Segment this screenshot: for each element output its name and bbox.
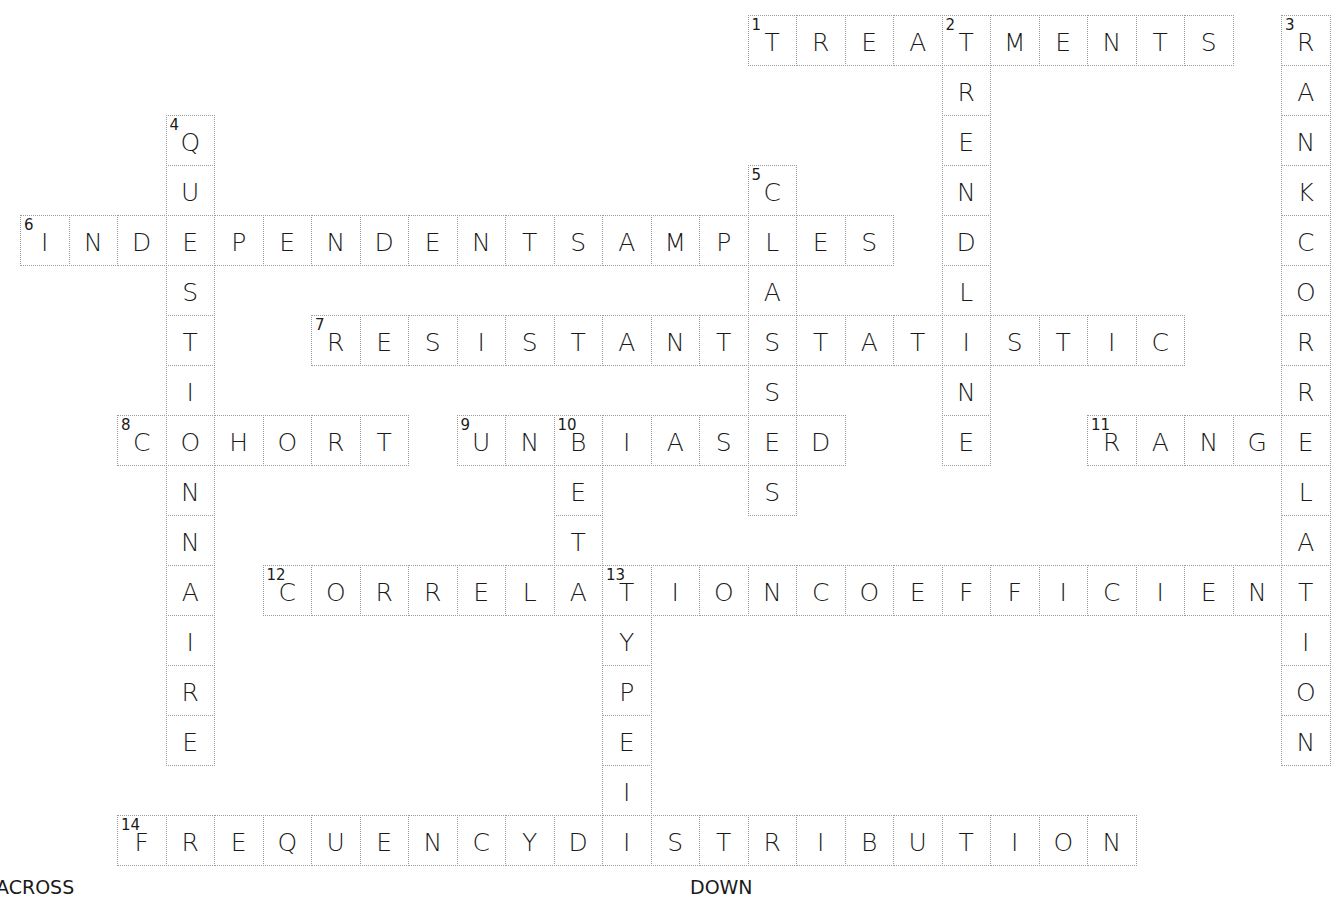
crossword-cell[interactable]: T — [942, 815, 992, 866]
crossword-cell[interactable]: N — [1233, 565, 1283, 616]
crossword-cell[interactable]: A — [845, 315, 895, 366]
crossword-cell[interactable]: N — [311, 215, 361, 266]
crossword-cell[interactable]: E — [263, 215, 313, 266]
crossword-cell[interactable]: A — [1281, 65, 1331, 116]
crossword-cell[interactable]: I — [990, 815, 1040, 866]
crossword-cell[interactable]: A — [602, 315, 652, 366]
crossword-cell[interactable]: F — [990, 565, 1040, 616]
crossword-cell[interactable]: A — [1136, 415, 1186, 466]
crossword-cell[interactable]: N — [1281, 715, 1331, 766]
crossword-cell[interactable]: U — [166, 165, 216, 216]
crossword-cell[interactable]: O — [1039, 815, 1089, 866]
crossword-cell[interactable]: T — [1281, 565, 1331, 616]
crossword-cell[interactable]: E — [1184, 565, 1234, 616]
crossword-cell[interactable]: 7R — [311, 315, 361, 366]
crossword-cell[interactable]: C — [1281, 215, 1331, 266]
crossword-cell[interactable]: N — [1281, 115, 1331, 166]
crossword-cell[interactable]: I — [166, 365, 216, 416]
crossword-cell[interactable]: R — [1281, 365, 1331, 416]
crossword-cell[interactable]: D — [117, 215, 167, 266]
crossword-cell[interactable]: M — [651, 215, 701, 266]
crossword-cell[interactable]: T — [554, 315, 604, 366]
crossword-cell[interactable]: T — [505, 215, 555, 266]
crossword-cell[interactable]: L — [1281, 465, 1331, 516]
crossword-cell[interactable]: I — [1039, 565, 1089, 616]
crossword-cell[interactable]: O — [1281, 665, 1331, 716]
crossword-cell[interactable]: N — [1087, 815, 1137, 866]
crossword-cell[interactable]: D — [942, 215, 992, 266]
crossword-cell[interactable]: G — [1233, 415, 1283, 466]
crossword-cell[interactable]: N — [166, 515, 216, 566]
crossword-cell[interactable]: S — [505, 315, 555, 366]
crossword-cell[interactable]: 14F — [117, 815, 167, 866]
crossword-cell[interactable]: T — [699, 315, 749, 366]
crossword-cell[interactable]: C — [457, 815, 507, 866]
crossword-cell[interactable]: O — [845, 565, 895, 616]
crossword-cell[interactable]: N — [1087, 15, 1137, 66]
crossword-cell[interactable]: 4Q — [166, 115, 216, 166]
crossword-cell[interactable]: I — [602, 815, 652, 866]
crossword-cell[interactable]: S — [699, 415, 749, 466]
crossword-cell[interactable]: R — [166, 815, 216, 866]
crossword-cell[interactable]: N — [748, 565, 798, 616]
crossword-cell[interactable]: B — [845, 815, 895, 866]
crossword-cell[interactable]: A — [602, 215, 652, 266]
crossword-cell[interactable]: R — [408, 565, 458, 616]
crossword-cell[interactable]: Y — [505, 815, 555, 866]
crossword-cell[interactable]: O — [699, 565, 749, 616]
crossword-cell[interactable]: E — [360, 815, 410, 866]
crossword-cell[interactable]: N — [942, 365, 992, 416]
crossword-cell[interactable]: A — [893, 15, 943, 66]
crossword-cell[interactable]: N — [942, 165, 992, 216]
crossword-cell[interactable]: T — [1039, 315, 1089, 366]
crossword-cell[interactable]: P — [602, 665, 652, 716]
crossword-cell[interactable]: 12C — [263, 565, 313, 616]
crossword-cell[interactable]: R — [1281, 315, 1331, 366]
crossword-cell[interactable]: I — [796, 815, 846, 866]
crossword-cell[interactable]: I — [1136, 565, 1186, 616]
crossword-cell[interactable]: S — [166, 265, 216, 316]
crossword-cell[interactable]: N — [651, 315, 701, 366]
crossword-cell[interactable]: 9U — [457, 415, 507, 466]
crossword-cell[interactable]: C — [1136, 315, 1186, 366]
crossword-cell[interactable]: E — [942, 115, 992, 166]
crossword-cell[interactable]: I — [1281, 615, 1331, 666]
crossword-cell[interactable]: O — [263, 415, 313, 466]
crossword-cell[interactable]: T — [1136, 15, 1186, 66]
crossword-cell[interactable]: T — [893, 315, 943, 366]
crossword-cell[interactable]: I — [457, 315, 507, 366]
crossword-cell[interactable]: S — [748, 365, 798, 416]
crossword-cell[interactable]: E — [893, 565, 943, 616]
crossword-cell[interactable]: E — [845, 15, 895, 66]
crossword-cell[interactable]: S — [408, 315, 458, 366]
crossword-cell[interactable]: D — [554, 815, 604, 866]
crossword-cell[interactable]: 3R — [1281, 15, 1331, 66]
crossword-cell[interactable]: T — [166, 315, 216, 366]
crossword-cell[interactable]: U — [893, 815, 943, 866]
crossword-cell[interactable]: I — [942, 315, 992, 366]
crossword-cell[interactable]: N — [166, 465, 216, 516]
crossword-cell[interactable]: T — [360, 415, 410, 466]
crossword-cell[interactable]: M — [990, 15, 1040, 66]
crossword-cell[interactable]: T — [554, 515, 604, 566]
crossword-cell[interactable]: T — [699, 815, 749, 866]
crossword-cell[interactable]: E — [214, 815, 264, 866]
crossword-cell[interactable]: 5C — [748, 165, 798, 216]
crossword-cell[interactable]: P — [699, 215, 749, 266]
crossword-cell[interactable]: A — [651, 415, 701, 466]
crossword-cell[interactable]: N — [408, 815, 458, 866]
crossword-cell[interactable]: D — [796, 415, 846, 466]
crossword-cell[interactable]: I — [651, 565, 701, 616]
crossword-cell[interactable]: 8C — [117, 415, 167, 466]
crossword-cell[interactable]: N — [1184, 415, 1234, 466]
crossword-cell[interactable]: D — [360, 215, 410, 266]
crossword-cell[interactable]: O — [166, 415, 216, 466]
crossword-cell[interactable]: I — [166, 615, 216, 666]
crossword-cell[interactable]: P — [214, 215, 264, 266]
crossword-cell[interactable]: C — [1087, 565, 1137, 616]
crossword-cell[interactable]: 2T — [942, 15, 992, 66]
crossword-cell[interactable]: L — [942, 265, 992, 316]
crossword-cell[interactable]: E — [166, 215, 216, 266]
crossword-cell[interactable]: S — [748, 465, 798, 516]
crossword-cell[interactable]: H — [214, 415, 264, 466]
